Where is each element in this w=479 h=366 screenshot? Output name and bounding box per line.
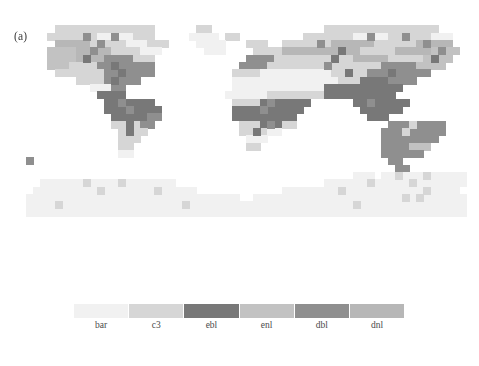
- legend-entry-bar: bar: [74, 304, 128, 318]
- legend-label-dbl: dbl: [295, 321, 349, 331]
- figure-container: (a) bar c3 ebl enl dbl: [0, 0, 479, 366]
- legend-entry-c3: c3: [129, 304, 183, 318]
- legend-swatch-c3: [129, 304, 183, 318]
- legend-entry-dbl: dbl: [295, 304, 349, 318]
- legend-swatch-dbl: [295, 304, 349, 318]
- panel-label: (a): [14, 31, 27, 43]
- legend-entry-enl: enl: [240, 304, 294, 318]
- legend-swatch-ebl: [184, 304, 238, 318]
- legend: bar c3 ebl enl dbl dnl: [0, 300, 479, 340]
- legend-label-dnl: dnl: [350, 321, 404, 331]
- legend-swatch-enl: [240, 304, 294, 318]
- legend-label-enl: enl: [240, 321, 294, 331]
- legend-label-c3: c3: [129, 321, 183, 331]
- legend-label-bar: bar: [74, 321, 128, 331]
- legend-swatch-row: bar c3 ebl enl dbl dnl: [74, 304, 404, 318]
- map-panel: (a): [0, 0, 479, 290]
- legend-label-ebl: ebl: [184, 321, 238, 331]
- legend-entry-ebl: ebl: [184, 304, 238, 318]
- legend-entry-dnl: dnl: [350, 304, 404, 318]
- world-pft-map: [0, 0, 479, 290]
- legend-swatch-bar: [74, 304, 128, 318]
- legend-swatch-dnl: [350, 304, 404, 318]
